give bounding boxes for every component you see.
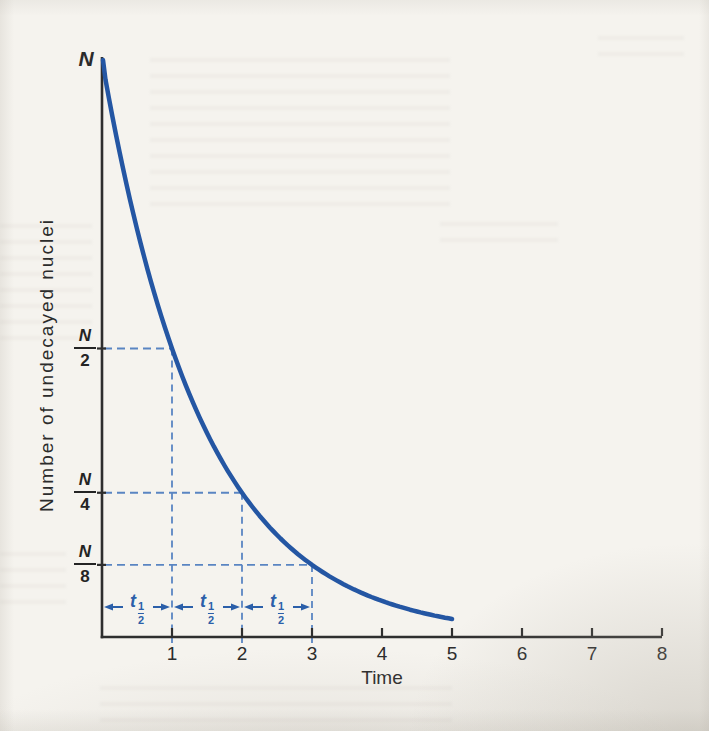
fraction-denominator: 8 bbox=[70, 565, 100, 585]
fraction-numerator: 1 bbox=[208, 600, 214, 612]
arrow-left-icon bbox=[174, 603, 183, 610]
half-life-symbol: t bbox=[200, 592, 206, 610]
decay-curve bbox=[103, 60, 452, 619]
half-life-subscript-fraction: 12 bbox=[278, 601, 284, 626]
fraction-denominator: 4 bbox=[70, 493, 100, 513]
half-life-symbol: t bbox=[130, 592, 136, 610]
x-tick-label: 6 bbox=[517, 643, 528, 665]
half-life-label: t12 bbox=[270, 592, 284, 626]
arrow-left-icon bbox=[244, 603, 253, 610]
fraction-denominator: 2 bbox=[208, 614, 214, 626]
arrow-right-icon bbox=[161, 603, 170, 610]
x-tick-label: 7 bbox=[587, 643, 598, 665]
fraction-denominator: 2 bbox=[70, 349, 100, 369]
arrow-right-icon bbox=[301, 603, 310, 610]
half-life-subscript-fraction: 12 bbox=[208, 601, 214, 626]
y-axis-top-label: N bbox=[72, 47, 100, 71]
y-axis-label-n-over-4: N 4 bbox=[70, 471, 100, 513]
fraction-numerator: 1 bbox=[138, 600, 144, 612]
half-life-subscript-fraction: 12 bbox=[138, 601, 144, 626]
x-tick-label: 4 bbox=[377, 643, 388, 665]
x-tick-label: 1 bbox=[167, 643, 178, 665]
y-axis-label-n-over-2: N 2 bbox=[70, 327, 100, 369]
arrow-right-icon bbox=[231, 603, 240, 610]
half-life-symbol: t bbox=[270, 592, 276, 610]
fraction-denominator: 2 bbox=[138, 614, 144, 626]
half-life-label: t12 bbox=[200, 592, 214, 626]
x-axis-title: Time bbox=[361, 667, 403, 689]
fraction-numerator: N bbox=[70, 327, 100, 347]
x-tick-label: 5 bbox=[447, 643, 458, 665]
textbook-figure-page: N N 2 N 4 N 8 Time Number of undecayed n… bbox=[0, 0, 709, 731]
fraction-denominator: 2 bbox=[278, 614, 284, 626]
x-tick-label: 8 bbox=[657, 643, 668, 665]
y-axis-label-n-over-8: N 8 bbox=[70, 543, 100, 585]
x-tick-label: 3 bbox=[307, 643, 318, 665]
arrow-left-icon bbox=[104, 603, 113, 610]
fraction-numerator: 1 bbox=[278, 600, 284, 612]
fraction-numerator: N bbox=[70, 543, 100, 563]
x-tick-label: 2 bbox=[237, 643, 248, 665]
half-life-label: t12 bbox=[130, 592, 144, 626]
decay-chart bbox=[0, 0, 709, 731]
y-axis-title: Number of undecayed nuclei bbox=[36, 218, 58, 512]
fraction-numerator: N bbox=[70, 471, 100, 491]
